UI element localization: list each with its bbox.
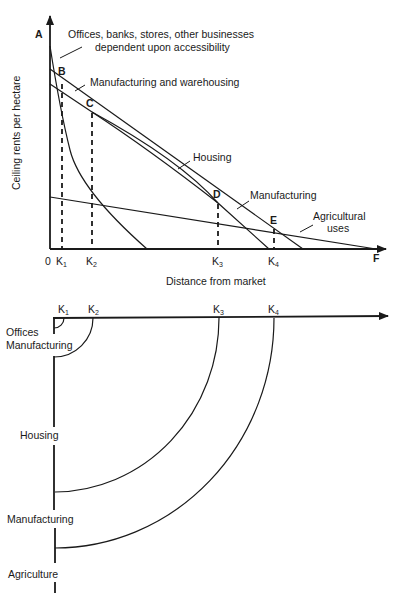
bottom-k3-label: K3 [213,303,224,316]
manuf-warehousing-label: Manufacturing and warehousing [90,76,240,88]
housing-curve [50,84,269,249]
agricultural-label-line1: Agricultural [313,210,366,222]
offices-leader [60,47,82,58]
k3-arc [55,318,219,492]
zone-housing-label: Housing [20,429,59,441]
zone-manufacturing-outer-label: Manufacturing [7,513,74,525]
origin-label: 0 [45,255,51,267]
k3-label: K3 [212,255,223,268]
bottom-k1-label: K1 [58,303,69,316]
k4-arc [55,318,274,548]
bottom-k4-label: K4 [268,303,279,316]
x-axis-label: Distance from market [166,275,266,287]
top-chart: A B C D E F Offices, banks, stores, othe… [10,16,386,287]
point-b-label: B [58,65,66,77]
zone-manufacturing-inner-label: Manufacturing [6,339,73,351]
point-f-label: F [373,252,380,264]
bottom-x-axis [53,316,388,318]
bottom-chart: K1 K2 K3 K4 Offices Manufacturing Housin… [6,303,388,593]
housing-label: Housing [193,151,232,163]
k1-label: K1 [56,255,67,268]
k2-arc [54,318,93,357]
bid-rent-diagram: A B C D E F Offices, banks, stores, othe… [0,0,397,598]
k1-arc [54,318,64,328]
agricultural-label-line2: uses [327,222,349,234]
y-axis-label: Ceiling rents per hectare [10,75,22,190]
point-e-label: E [270,214,277,226]
point-d-label: D [213,188,221,200]
point-c-label: C [86,97,94,109]
bottom-k2-label: K2 [88,303,99,316]
manufacturing-leader [237,201,249,209]
k4-label: K4 [268,255,279,268]
manufacturing-warehousing-line [50,69,303,249]
manufacturing-label: Manufacturing [250,189,317,201]
zone-offices-label: Offices [6,326,38,338]
point-a-label: A [35,28,43,40]
zone-agriculture-label: Agriculture [8,568,58,580]
agricultural-leader [300,225,313,232]
offices-label-line1: Offices, banks, stores, other businesses [68,28,254,40]
offices-label-line2: dependent upon accessibility [95,41,231,53]
k2-label: K2 [86,255,97,268]
